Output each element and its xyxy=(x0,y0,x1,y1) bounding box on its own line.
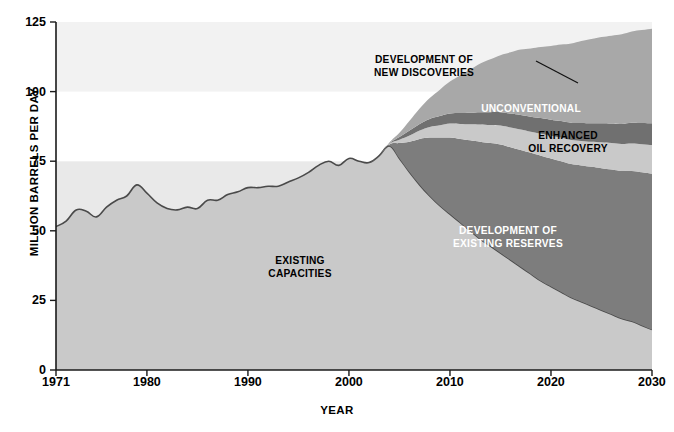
y-tick-25: 25 xyxy=(12,293,46,307)
y-tick-125: 125 xyxy=(12,15,46,29)
x-tick-2020: 2020 xyxy=(537,375,565,389)
x-tick-2030: 2030 xyxy=(638,375,666,389)
annotation-unconventional: UNCONVENTIONAL xyxy=(481,103,581,116)
annotation-existing-capacities: EXISTING CAPACITIES xyxy=(268,255,331,280)
annotation-enhanced-oil-recovery: ENHANCED OIL RECOVERY xyxy=(528,130,607,155)
y-tick-75: 75 xyxy=(12,154,46,168)
y-tick-0: 0 xyxy=(12,363,46,377)
x-tick-1980: 1980 xyxy=(133,375,161,389)
y-axis-tick-labels: 125 100 75 50 25 0 xyxy=(12,0,46,432)
y-tick-50: 50 xyxy=(12,224,46,238)
y-tick-100: 100 xyxy=(12,85,46,99)
stacked-area-svg xyxy=(56,22,652,370)
x-axis-title: YEAR xyxy=(0,404,674,416)
oil-supply-area-chart: MILLION BARRELS PER DAY YEAR 125 100 75 … xyxy=(0,0,674,432)
x-tick-1971: 1971 xyxy=(42,375,70,389)
annotation-development-new-discoveries: DEVELOPMENT OF NEW DISCOVERIES xyxy=(374,54,474,79)
x-tick-1990: 1990 xyxy=(234,375,262,389)
plot-area xyxy=(56,22,652,370)
x-tick-2000: 2000 xyxy=(335,375,363,389)
annotation-development-existing-reserves: DEVELOPMENT OF EXISTING RESERVES xyxy=(453,225,563,250)
x-tick-2010: 2010 xyxy=(436,375,464,389)
